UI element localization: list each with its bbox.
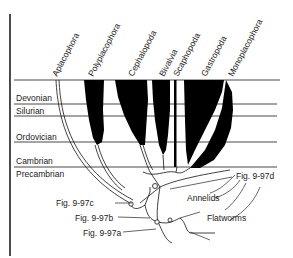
period-label: Precambrian xyxy=(16,169,64,179)
lineage-spindles xyxy=(84,80,233,168)
period-label: Ordovician xyxy=(16,132,57,142)
period-label: Cambrian xyxy=(16,156,53,166)
flatworms-label: Flatworms xyxy=(207,213,246,223)
period-labels: Devonian Silurian Ordovician Cambrian Pr… xyxy=(16,93,64,179)
taxon-label: Monoplacophora xyxy=(226,17,265,78)
annelids-label: Annelids xyxy=(187,193,220,203)
taxon-label: Cephalopoda xyxy=(126,28,159,78)
fig-d-label: Fig. 9-97d xyxy=(236,171,275,181)
period-label: Silurian xyxy=(16,106,45,116)
annotation-labels: Fig. 9-97d Fig. 9-97c Fig. 9-97b Fig. 9-… xyxy=(56,171,275,238)
taxon-label: Gastropoda xyxy=(199,34,229,78)
fig-b-label: Fig. 9-97b xyxy=(75,213,114,223)
taxon-label: Aplacophora xyxy=(50,31,81,78)
fig-c-label: Fig. 9-97c xyxy=(56,198,95,208)
taxa-labels: Aplacophora Polyplacophora Cephalopoda B… xyxy=(50,17,265,78)
phylogeny-diagram: Aplacophora Polyplacophora Cephalopoda B… xyxy=(0,0,293,258)
fig-a-label: Fig. 9-97a xyxy=(83,228,122,238)
period-label: Devonian xyxy=(16,93,52,103)
taxon-label: Polyplacophora xyxy=(86,21,122,78)
